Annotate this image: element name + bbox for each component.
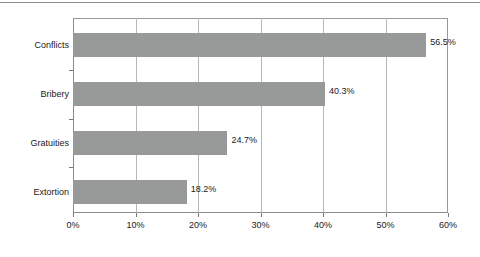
x-axis-tick-60 [448,213,449,217]
top-divider-rule [0,2,480,3]
bar-conflicts [73,33,426,57]
x-axis-label-40: 40% [314,220,332,230]
bar-value-conflicts: 56.5% [430,37,456,47]
x-axis-label-50: 50% [376,220,394,230]
x-axis-label-0: 0% [66,220,79,230]
x-axis-label-20: 20% [189,220,207,230]
plot-right-border [447,18,448,213]
x-axis-label-10: 10% [126,220,144,230]
bar-value-bribery: 40.3% [329,86,355,96]
x-axis-label-60: 60% [439,220,457,230]
y-axis-tick-1 [69,70,73,71]
x-axis-tick-30 [261,213,262,217]
bar-extortion [73,180,187,204]
x-axis-tick-40 [323,213,324,217]
category-label-gratuities: Gratuities [30,138,69,148]
chart-figure: Conflicts Bribery Gratuities Extortion 5… [0,0,480,257]
y-axis-tick-2 [69,119,73,120]
x-axis-tick-0 [73,213,74,217]
bar-gratuities [73,131,227,155]
category-label-conflicts: Conflicts [34,40,69,50]
bar-bribery [73,82,325,106]
bar-value-extortion: 18.2% [191,184,217,194]
category-label-extortion: Extortion [33,187,69,197]
x-axis-tick-10 [136,213,137,217]
category-label-bribery: Bribery [40,89,69,99]
x-axis-tick-50 [386,213,387,217]
y-axis-tick-3 [69,167,73,168]
plot-area: 56.5% 40.3% 24.7% 18.2% 0% 10% 20% 30% 4… [73,18,448,213]
category-axis-labels: Conflicts Bribery Gratuities Extortion [0,0,69,257]
bar-value-gratuities: 24.7% [231,135,257,145]
x-axis-label-30: 30% [251,220,269,230]
x-axis-tick-20 [198,213,199,217]
